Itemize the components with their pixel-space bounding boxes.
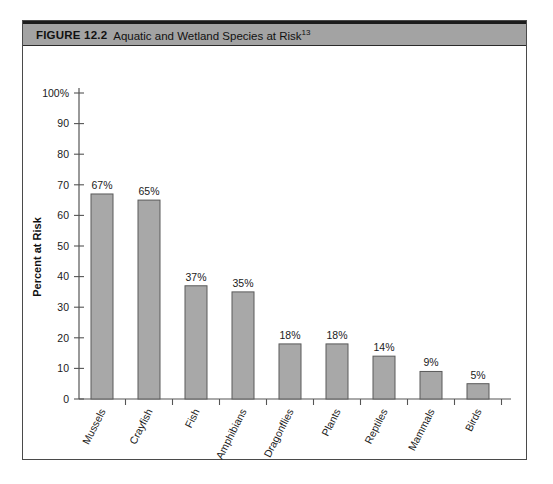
- x-axis-category-label: Reptiles: [362, 406, 390, 445]
- x-axis-category-label: Amphibians: [213, 406, 249, 460]
- y-axis-tick-label: 90: [57, 117, 69, 129]
- x-axis-category-label: Mussels: [80, 406, 108, 446]
- bar-value-label: 67%: [91, 179, 112, 191]
- y-axis-tick-label: 10: [57, 362, 69, 374]
- bar-value-label: 9%: [423, 356, 438, 368]
- figure-title-footnote-marker: 13: [302, 28, 311, 37]
- bar-value-label: 37%: [185, 271, 206, 283]
- y-axis-tick-label: 80: [57, 148, 69, 160]
- bar: [185, 286, 207, 399]
- bar: [373, 356, 395, 399]
- figure-caption-bar: FIGURE 12.2 Aquatic and Wetland Species …: [23, 21, 526, 46]
- bar-value-label: 35%: [232, 277, 253, 289]
- bar-value-label: 18%: [279, 329, 300, 341]
- x-axis-category-label: Birds: [462, 406, 484, 433]
- x-axis: [79, 399, 511, 405]
- bar-value-label: 5%: [470, 369, 485, 381]
- y-axis-tick-label: 20: [57, 332, 69, 344]
- y-axis-tick-label: 0: [63, 393, 69, 405]
- bar-value-label: 18%: [326, 329, 347, 341]
- y-axis-tick-label: 70: [57, 179, 69, 191]
- bar: [467, 384, 489, 399]
- y-axis-title: Percent at Risk: [31, 216, 43, 296]
- figure-title: Aquatic and Wetland Species at Risk13: [113, 28, 310, 42]
- x-axis-category-label: Dragonflies: [261, 406, 296, 459]
- y-axis-tick-label: 40: [57, 270, 69, 282]
- bar: [326, 344, 348, 399]
- x-axis-category-label: Mammals: [405, 406, 436, 452]
- x-axis-category-label: Crayfish: [127, 406, 155, 446]
- bar-value-label: 65%: [138, 185, 159, 197]
- chart-plot-area: 0102030405060708090100% 67%65%37%35%18%1…: [23, 46, 526, 461]
- bar: [232, 292, 254, 399]
- x-axis-category-label: Fish: [182, 406, 202, 429]
- category-labels-group: MusselsCrayfishFishAmphibiansDragonflies…: [80, 406, 484, 460]
- y-axis: 0102030405060708090100%: [42, 87, 84, 405]
- bar: [279, 344, 301, 399]
- y-axis-tick-label: 100%: [42, 87, 69, 99]
- figure-title-text: Aquatic and Wetland Species at Risk: [113, 29, 301, 41]
- figure-number-label: FIGURE 12.2: [36, 29, 107, 41]
- y-axis-tick-label: 30: [57, 301, 69, 313]
- y-axis-tick-label: 50: [57, 240, 69, 252]
- figure-frame: FIGURE 12.2 Aquatic and Wetland Species …: [22, 20, 527, 460]
- bar: [91, 194, 113, 399]
- y-axis-tick-label: 60: [57, 209, 69, 221]
- bar: [138, 200, 160, 399]
- bar-chart: 0102030405060708090100% 67%65%37%35%18%1…: [23, 46, 526, 461]
- bar: [420, 371, 442, 399]
- bar-value-label: 14%: [373, 341, 394, 353]
- bars-group: 67%65%37%35%18%18%14%9%5%: [91, 179, 489, 399]
- x-axis-category-label: Plants: [319, 406, 343, 437]
